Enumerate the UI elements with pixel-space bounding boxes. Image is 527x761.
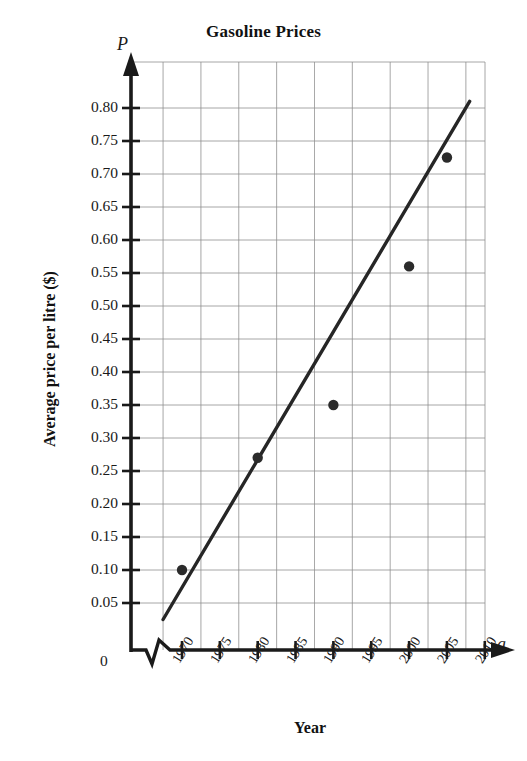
x-axis-arrow-icon [491,642,515,658]
trend-line [163,101,470,619]
chart-figure: Gasoline Prices P a Average price per li… [0,0,527,761]
plot-area [0,0,527,761]
data-point-marker[interactable] [328,400,338,410]
data-point-marker[interactable] [177,565,187,575]
x-axis-line-with-break [131,640,495,664]
data-point-marker[interactable] [442,152,452,162]
y-axis-arrow-icon [123,52,139,76]
data-point-marker[interactable] [404,261,414,271]
data-point-marker[interactable] [253,453,263,463]
